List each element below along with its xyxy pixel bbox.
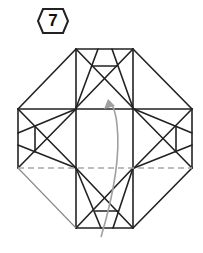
origami-diagram [0,0,203,253]
back-edge-line [18,168,76,228]
fold-arrow [101,102,118,237]
